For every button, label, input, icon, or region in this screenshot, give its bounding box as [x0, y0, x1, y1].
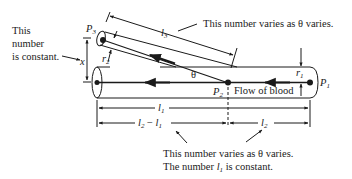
point-p1: [307, 80, 313, 86]
label-l2: l2: [261, 116, 267, 133]
centerline-branch: [103, 40, 227, 83]
flow-of-blood-label: Flow of blood: [234, 84, 294, 97]
point-p3: [100, 37, 106, 43]
label-p1: P1: [320, 76, 330, 93]
left-note-line1: This: [12, 24, 31, 37]
top-note: This number varies as θ varies.: [203, 17, 333, 30]
label-r2: r2: [102, 52, 110, 69]
bottom-note-line2: The number l1 is constant.: [163, 160, 273, 177]
label-p2: P2: [213, 85, 223, 102]
main-end-dot: [95, 80, 100, 85]
left-note-line2: number: [12, 37, 44, 50]
label-r1: r1: [296, 66, 304, 83]
label-theta: θ: [191, 68, 196, 81]
label-l3: l3: [161, 26, 167, 43]
left-note-line3: is constant.: [12, 50, 59, 63]
point-p2: [225, 80, 231, 86]
label-p3: P3: [86, 22, 96, 39]
label-l2-minus-l1: l2 − l1: [138, 116, 162, 133]
bottom-note-line1: This number varies as θ varies.: [163, 147, 293, 160]
label-x: x: [80, 55, 85, 68]
